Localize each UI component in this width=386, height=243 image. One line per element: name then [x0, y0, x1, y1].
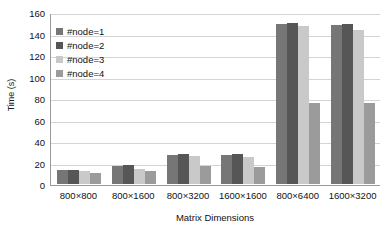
x-tick-label: 1600×3200 — [325, 190, 380, 201]
legend-swatch-icon — [56, 56, 63, 63]
y-tick-label: 40 — [34, 138, 45, 148]
y-tick-label: 160 — [29, 9, 45, 19]
x-tick-label: 800×6400 — [270, 190, 325, 201]
legend-label: #node=2 — [67, 41, 104, 51]
x-tick-label: 800×1600 — [106, 190, 161, 201]
y-tick-label: 20 — [34, 160, 45, 170]
legend-swatch-icon — [56, 70, 63, 77]
bar — [276, 24, 287, 184]
x-tick-label: 800×3200 — [161, 190, 216, 201]
legend-item: #node=1 — [56, 26, 104, 37]
y-tick-label: 60 — [34, 117, 45, 127]
bar — [232, 154, 243, 184]
legend-swatch-icon — [56, 28, 63, 35]
legend-item: #node=2 — [56, 40, 104, 51]
bar — [189, 156, 200, 184]
bar — [112, 166, 123, 184]
bar — [298, 26, 309, 184]
legend-label: #node=1 — [67, 27, 104, 37]
bar — [79, 171, 90, 184]
bar — [68, 170, 79, 184]
bar — [364, 103, 375, 184]
bar — [331, 25, 342, 184]
x-tick-label: 800×800 — [51, 190, 106, 201]
x-tick-label: 1600×1600 — [215, 190, 270, 201]
bar — [145, 171, 156, 184]
y-tick-label: 0 — [40, 181, 45, 191]
y-tick-label: 120 — [29, 52, 45, 62]
legend-label: #node=4 — [67, 69, 104, 79]
legend-item: #node=4 — [56, 68, 104, 79]
y-tick-label: 140 — [29, 31, 45, 41]
y-tick-label: 100 — [29, 74, 45, 84]
bar-chart: Time (s) 020406080100120140160 800×80080… — [0, 0, 386, 243]
bar — [123, 165, 134, 184]
bar — [134, 169, 145, 184]
bar — [90, 173, 101, 184]
x-axis-title: Matrix Dimensions — [50, 212, 380, 223]
bar-group — [107, 14, 162, 184]
bar — [254, 167, 265, 184]
bar — [309, 103, 320, 184]
y-tick-label: 80 — [34, 95, 45, 105]
bar — [243, 157, 254, 184]
bar — [167, 155, 178, 184]
bar — [353, 30, 364, 184]
legend-item: #node=3 — [56, 54, 104, 65]
bar — [200, 166, 211, 184]
bar-group — [271, 14, 326, 184]
y-axis-tick-labels: 020406080100120140160 — [18, 14, 48, 186]
bar — [57, 170, 68, 184]
bar-group — [325, 14, 380, 184]
bar — [287, 23, 298, 184]
y-axis-title-label: Time (s) — [6, 79, 16, 112]
bar-group — [161, 14, 216, 184]
bar — [342, 24, 353, 184]
x-axis-tick-labels: 800×800800×1600800×32001600×1600800×6400… — [51, 190, 380, 201]
bar-group — [216, 14, 271, 184]
chart-legend: #node=1#node=2#node=3#node=4 — [56, 26, 104, 79]
bar — [221, 155, 232, 184]
bar — [178, 154, 189, 184]
legend-swatch-icon — [56, 42, 63, 49]
legend-label: #node=3 — [67, 55, 104, 65]
